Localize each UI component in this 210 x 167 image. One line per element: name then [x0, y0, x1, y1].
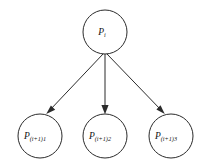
node-child-2-label-sub: (i+1)2	[95, 135, 111, 143]
node-child-1-label-sub: (i+1)1	[30, 135, 46, 143]
arrowhead-left-icon	[46, 106, 55, 114]
edge-line-right	[107, 54, 162, 111]
edge-parent-child-1	[46, 54, 103, 115]
edge-parent-child-2	[101, 54, 108, 114]
node-child-1: P(i+1)1	[18, 114, 62, 158]
tree-diagram-canvas: Pi P(i+1)1 P(i+1)2 P(i+1)3	[0, 0, 210, 167]
node-parent: Pi	[83, 10, 127, 54]
edge-parent-child-3	[107, 54, 165, 115]
node-parent-label-sub: i	[104, 31, 106, 38]
edge-line-left	[50, 54, 104, 111]
node-child-2: P(i+1)2	[83, 114, 127, 158]
node-child-3-label-sub: (i+1)3	[161, 135, 177, 143]
tree-diagram: Pi P(i+1)1 P(i+1)2 P(i+1)3	[0, 0, 210, 167]
edge-group	[46, 54, 165, 115]
arrowhead-middle-icon	[101, 105, 108, 114]
node-child-3: P(i+1)3	[149, 114, 193, 158]
